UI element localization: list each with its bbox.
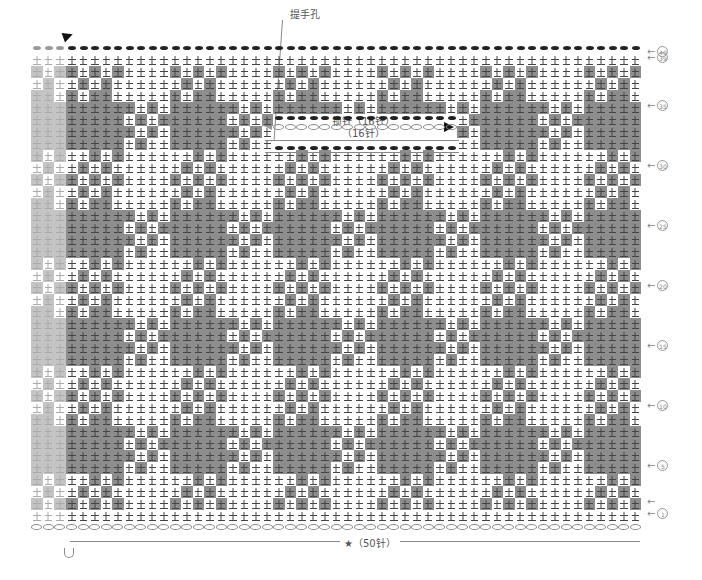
stitch-cell	[285, 90, 297, 102]
stitch-cell	[78, 90, 90, 102]
faded-stitch-cell	[54, 414, 66, 426]
stitch-cell	[112, 306, 124, 318]
chain-stitch-mark	[56, 46, 64, 50]
stitch-cell	[308, 90, 320, 102]
stitch-cell	[354, 246, 366, 258]
stitch-cell	[572, 54, 584, 66]
stitch-cell	[78, 438, 90, 450]
stitch-cell	[446, 474, 458, 486]
stitch-cell	[400, 498, 412, 510]
stitch-cell	[124, 282, 136, 294]
stitch-cell	[170, 426, 182, 438]
row-number-label: ←35	[647, 100, 668, 111]
faded-stitch-cell	[43, 318, 55, 330]
handle-chain-loop	[411, 124, 422, 130]
stitch-cell	[377, 426, 389, 438]
stitch-cell	[480, 90, 492, 102]
stitch-cell	[388, 306, 400, 318]
stitch-cell	[112, 162, 124, 174]
stitch-cell	[158, 126, 170, 138]
stitch-cell	[480, 438, 492, 450]
stitch-cell	[492, 390, 504, 402]
stitch-cell	[538, 402, 550, 414]
stitch-cell	[204, 474, 216, 486]
stitch-cell	[227, 366, 239, 378]
stitch-cell	[273, 222, 285, 234]
stitch-cell	[400, 486, 412, 498]
handle-chain-mark	[402, 116, 410, 120]
stitch-cell	[285, 510, 297, 522]
faded-stitch-cell	[54, 138, 66, 150]
stitch-cell	[423, 174, 435, 186]
stitch-cell	[423, 306, 435, 318]
stitch-cell	[285, 366, 297, 378]
stitch-cell	[434, 78, 446, 90]
stitch-cell	[549, 66, 561, 78]
chain-stitch-mark	[540, 46, 548, 50]
faded-stitch-cell	[54, 198, 66, 210]
stitch-cell	[124, 510, 136, 522]
stitch-cell	[607, 474, 619, 486]
faded-stitch-cell	[43, 270, 55, 282]
stitch-cell	[423, 498, 435, 510]
stitch-cell	[595, 450, 607, 462]
stitch-cell	[423, 354, 435, 366]
stitch-cell	[262, 114, 274, 126]
faded-stitch-cell	[31, 258, 43, 270]
stitch-cell	[607, 78, 619, 90]
stitch-cell	[434, 306, 446, 318]
faded-stitch-cell	[43, 78, 55, 90]
stitch-cell	[89, 210, 101, 222]
stitch-cell	[285, 198, 297, 210]
stitch-cell	[377, 450, 389, 462]
stitch-cell	[319, 402, 331, 414]
stitch-cell	[296, 90, 308, 102]
stitch-cell	[216, 306, 228, 318]
faded-stitch-cell	[43, 414, 55, 426]
faded-stitch-cell	[43, 486, 55, 498]
stitch-cell	[147, 198, 159, 210]
stitch-cell	[227, 162, 239, 174]
stitch-cell	[262, 282, 274, 294]
stitch-cell	[101, 258, 113, 270]
chain-stitch-mark	[517, 46, 525, 50]
stitch-cell	[204, 174, 216, 186]
foundation-chain-loop	[607, 524, 618, 530]
stitch-cell	[101, 174, 113, 186]
stitch-cell	[630, 306, 642, 318]
stitch-cell	[78, 366, 90, 378]
stitch-cell	[227, 222, 239, 234]
stitch-cell	[216, 498, 228, 510]
stitch-cell	[158, 474, 170, 486]
stitch-cell	[515, 450, 527, 462]
stitch-cell	[227, 354, 239, 366]
stitch-cell	[400, 258, 412, 270]
stitch-cell	[273, 270, 285, 282]
stitch-cell	[78, 294, 90, 306]
stitch-cell	[584, 198, 596, 210]
stitch-cell	[618, 90, 630, 102]
stitch-cell	[112, 150, 124, 162]
stitch-cell	[331, 306, 343, 318]
stitch-cell	[354, 66, 366, 78]
stitch-cell	[193, 186, 205, 198]
stitch-cell	[572, 174, 584, 186]
stitch-cell	[193, 342, 205, 354]
stitch-cell	[469, 318, 481, 330]
stitch-cell	[434, 378, 446, 390]
handle-chain-mark	[298, 146, 306, 150]
handle-chain-loop	[388, 124, 399, 130]
stitch-cell	[538, 498, 550, 510]
foundation-chain-loop	[354, 524, 365, 530]
faded-stitch-cell	[54, 102, 66, 114]
stitch-cell	[124, 342, 136, 354]
faded-stitch-cell	[54, 150, 66, 162]
stitch-cell	[572, 162, 584, 174]
stitch-cell	[227, 234, 239, 246]
stitch-cell	[607, 258, 619, 270]
faded-stitch-cell	[31, 366, 43, 378]
chain-stitch-mark	[425, 46, 433, 50]
stitch-cell	[457, 342, 469, 354]
stitch-cell	[227, 270, 239, 282]
stitch-cell	[112, 294, 124, 306]
